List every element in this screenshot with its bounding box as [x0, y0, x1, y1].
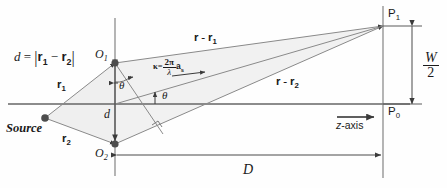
screen-point-p1-label: P1 — [388, 8, 400, 22]
r2-label: r2 — [62, 133, 71, 147]
d-gap-label: d — [104, 108, 110, 120]
path-difference-1-label: r - r1 — [194, 32, 217, 46]
ray-diagram-svg — [0, 0, 447, 188]
separation-formula: d = |r1 − r2| — [14, 50, 75, 66]
kappa-formula: κ=2πλas — [153, 58, 184, 77]
path-difference-2-label: r - r2 — [276, 76, 299, 90]
theta-upper-label: θ — [119, 80, 124, 91]
node-origin-1 — [111, 59, 118, 66]
z-axis-label: z-axis — [336, 120, 363, 131]
half-width-label: W2 — [423, 51, 439, 80]
source-label: Source — [6, 122, 42, 135]
theta-axis-label: θ — [162, 90, 167, 101]
node-origin-2 — [111, 140, 118, 147]
screen-point-p0-label: P0 — [388, 106, 400, 120]
distance-D-label: D — [243, 163, 253, 177]
r1-label: r1 — [57, 79, 66, 93]
origin-2-label: O2 — [95, 147, 108, 163]
node-source — [41, 114, 49, 122]
origin-1-label: O1 — [95, 48, 108, 64]
figure-canvas: d = |r1 − r2| O1 O2 Source r1 r2 d θ θ κ… — [0, 0, 447, 188]
